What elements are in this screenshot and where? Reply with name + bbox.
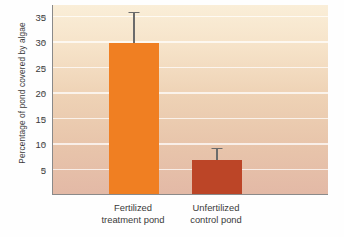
- plot-area: [52, 5, 328, 195]
- gridline: [53, 41, 328, 43]
- y-tick-mark: [41, 67, 46, 68]
- x-axis-category-label: Fertilizedtreatment pond: [101, 202, 164, 227]
- y-axis-tick-labels: 5101520253035: [20, 0, 46, 237]
- bar: [109, 43, 159, 195]
- y-tick-mark: [41, 93, 46, 94]
- y-tick-mark: [41, 118, 46, 119]
- y-tick-mark: [41, 42, 46, 43]
- y-tick-mark: [41, 169, 46, 170]
- gridline: [53, 143, 328, 145]
- y-tick-mark: [41, 16, 46, 17]
- chart-figure: Percentage of pond covered by algae 5101…: [0, 0, 344, 237]
- x-axis-label-line: Unfertilized: [190, 202, 242, 214]
- error-bar-stem: [133, 12, 134, 44]
- error-bar-stem: [216, 148, 217, 160]
- x-axis-label-line: treatment pond: [101, 214, 164, 226]
- gridline: [53, 169, 328, 171]
- x-axis-label-line: control pond: [190, 214, 242, 226]
- gridline: [53, 118, 328, 120]
- y-tick-mark: [41, 144, 46, 145]
- x-axis-label-line: Fertilized: [101, 202, 164, 214]
- bar: [192, 160, 242, 195]
- x-axis-category-label: Unfertilizedcontrol pond: [190, 202, 242, 227]
- gridline: [53, 92, 328, 94]
- error-bar-cap: [129, 12, 140, 13]
- gridline: [53, 16, 328, 18]
- gridline: [53, 67, 328, 69]
- error-bar-cap: [212, 148, 223, 149]
